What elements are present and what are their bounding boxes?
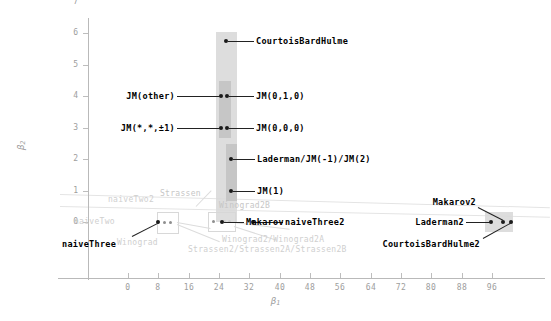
leader-line-jm-1 — [233, 191, 255, 192]
faded-label-naivetwo: naiveTwo — [74, 218, 115, 226]
y-tick-label: 5 — [62, 60, 78, 69]
y-tick-label: 2 — [62, 154, 78, 163]
x-tick — [492, 273, 493, 278]
label-courtoisbardhulme: CourtoisBardHulme — [256, 37, 348, 46]
guide-point — [169, 221, 172, 224]
guide-point — [212, 220, 215, 223]
x-tick-label: 32 — [236, 283, 262, 292]
x-tick — [340, 273, 341, 278]
leader-line-laderman2 — [466, 222, 491, 223]
leader-line-jm-0-0-0 — [229, 128, 254, 129]
guide-box-left — [157, 212, 179, 234]
x-tick — [189, 273, 190, 278]
x-tick-label: 48 — [297, 283, 323, 292]
label-naivethree2: naiveThree2 — [285, 218, 345, 227]
x-tick — [431, 273, 432, 278]
x-tick — [462, 273, 463, 278]
y-tick-label: 6 — [62, 28, 78, 37]
x-axis-label: β1 — [0, 296, 551, 307]
y-axis-label-text: β — [16, 145, 26, 150]
x-tick — [128, 273, 129, 278]
y-tick — [83, 33, 88, 34]
x-tick-label: 56 — [327, 283, 353, 292]
faded-label-winograd2b: Winograd2B — [219, 202, 270, 210]
x-tick-label: 72 — [388, 283, 414, 292]
label-naivethree: naiveThree — [62, 240, 116, 249]
x-tick-label: 96 — [479, 283, 505, 292]
x-tick — [219, 273, 220, 278]
label-jm-0-0-0: JM(0,0,0) — [256, 124, 305, 133]
label-makarov2: Makarov2 — [396, 198, 476, 207]
x-tick-label: 0 — [115, 283, 141, 292]
label-jm-star-pm1: JM(*,*,±1) — [58, 124, 175, 133]
y-axis-label-sub: 2 — [19, 141, 27, 145]
guide-point — [163, 221, 166, 224]
label-laderman2: Laderman2 — [380, 218, 464, 227]
label-jm-1: JM(1) — [257, 187, 284, 196]
faded-label-strassen2-group: Strassen2/Strassen2A/Strassen2B — [188, 246, 347, 254]
x-tick-label: 16 — [176, 283, 202, 292]
x-tick — [280, 273, 281, 278]
y-tick — [83, 65, 88, 66]
leader-line-jm-other — [177, 96, 220, 97]
x-tick — [249, 273, 250, 278]
faded-label-winograd2-group: Winograd2/Winograd2A — [222, 236, 324, 244]
y-tick-label: 7 — [62, 0, 78, 6]
data-point-makarov2[interactable] — [501, 220, 505, 224]
x-tick-label: 40 — [267, 283, 293, 292]
label-jm-other: JM(other) — [58, 92, 175, 101]
y-tick-label: 1 — [62, 186, 78, 195]
x-tick-label: 88 — [449, 283, 475, 292]
scatter-plot: 0 8 16 24 32 40 48 56 64 72 80 88 96 0 1… — [0, 0, 551, 321]
leader-line-jm-pm1 — [177, 128, 220, 129]
x-tick — [371, 273, 372, 278]
faded-label-strassen: Strassen — [160, 190, 201, 198]
x-tick — [401, 273, 402, 278]
y-axis-label: β2 — [16, 141, 27, 150]
x-tick-label: 80 — [418, 283, 444, 292]
faded-label-naivetwo2: naiveTwo2 — [108, 196, 154, 204]
leader-line-jm-0-1-0 — [229, 96, 254, 97]
leader-line-naivethree — [132, 222, 159, 237]
label-laderman-jm: Laderman/JM(-1)/JM(2) — [257, 155, 371, 164]
x-tick — [310, 273, 311, 278]
x-axis-label-sub: 1 — [276, 299, 280, 307]
label-courtoisbardhulme2: CourtoisBardHulme2 — [330, 240, 480, 249]
leader-line-makarov — [224, 222, 244, 223]
faded-label-winograd: Winograd — [117, 239, 158, 247]
y-tick — [83, 159, 88, 160]
label-makarov: Makarov — [246, 218, 284, 227]
x-tick-label: 64 — [358, 283, 384, 292]
x-tick-label: 24 — [206, 283, 232, 292]
x-axis — [58, 278, 545, 279]
leader-line-laderman — [233, 159, 255, 160]
label-jm-0-1-0: JM(0,1,0) — [256, 92, 305, 101]
x-tick-label: 8 — [145, 283, 171, 292]
x-tick — [158, 273, 159, 278]
leader-line-courtoisbardhulme — [228, 41, 254, 42]
y-tick — [83, 191, 88, 192]
